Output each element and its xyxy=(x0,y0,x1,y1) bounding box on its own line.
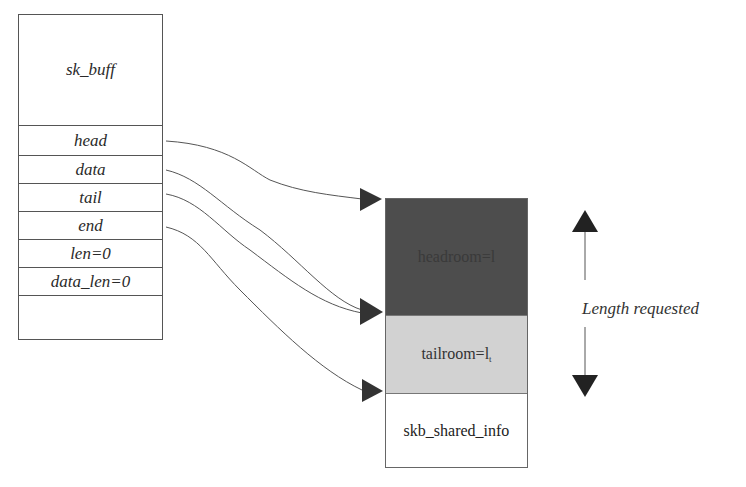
tailroom-label: tailroom=lt xyxy=(421,345,491,364)
data-pointer-arrow xyxy=(166,170,362,310)
skb-shared-info-block: skb_shared_info xyxy=(386,393,527,467)
data-tail-arrowhead-icon xyxy=(360,298,383,325)
field-data: data xyxy=(19,155,162,183)
field-tail: tail xyxy=(19,183,162,211)
headroom-block: headroom=l xyxy=(386,199,527,315)
sk-buff-title: sk_buff xyxy=(19,15,162,125)
field-len: len=0 xyxy=(19,239,162,267)
head-pointer-arrow xyxy=(166,141,362,199)
sk-buff-struct: sk_buff head data tail end len=0 data_le… xyxy=(18,14,163,340)
field-empty xyxy=(19,295,162,339)
headroom-label: headroom=l xyxy=(418,248,495,266)
field-end: end xyxy=(19,211,162,239)
field-head: head xyxy=(19,125,162,155)
field-data-len: data_len=0 xyxy=(19,267,162,295)
tailroom-block: tailroom=lt xyxy=(386,315,527,393)
end-pointer-arrow xyxy=(166,227,362,390)
data-buffer: headroom=l tailroom=lt skb_shared_info xyxy=(385,198,528,468)
tail-pointer-arrow xyxy=(166,194,362,313)
length-arrow-up-icon xyxy=(572,210,598,232)
shared-info-label: skb_shared_info xyxy=(404,422,510,440)
head-arrowhead-icon xyxy=(360,188,382,211)
length-arrow-down-icon xyxy=(572,375,598,397)
length-requested-label: Length requested xyxy=(582,299,699,319)
end-arrowhead-icon xyxy=(362,379,383,402)
